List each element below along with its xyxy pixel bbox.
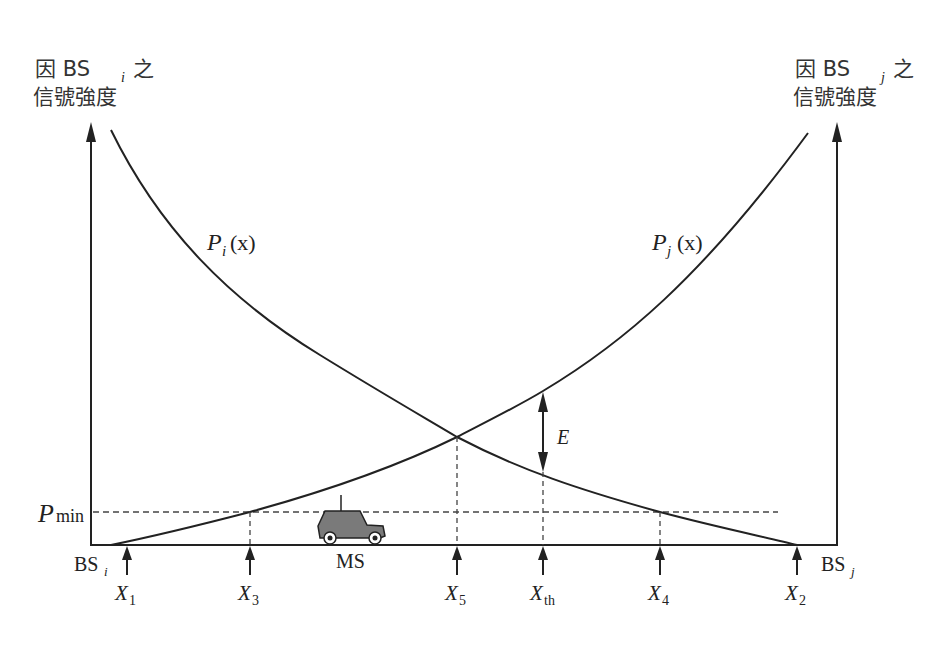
svg-text:P: P [651, 229, 667, 255]
svg-text:信號強度: 信號強度 [793, 85, 877, 109]
svg-text:BS: BS [74, 553, 98, 575]
svg-text:min: min [56, 506, 84, 526]
svg-text:(x): (x) [677, 230, 703, 255]
pi-label: P i (x) [206, 229, 256, 259]
x1-arrow-icon [122, 546, 132, 575]
svg-text:i: i [104, 564, 108, 579]
svg-text:X: X [237, 581, 252, 605]
svg-text:3: 3 [252, 593, 259, 608]
svg-text:5: 5 [459, 593, 466, 608]
xth-arrow-icon [538, 546, 548, 575]
x3-label: X 3 [237, 581, 259, 608]
svg-text:j: j [879, 70, 885, 85]
svg-text:X: X [444, 581, 459, 605]
svg-text:之: 之 [893, 57, 914, 81]
x2-label: X 2 [784, 581, 806, 608]
x1-label: X 1 [114, 581, 136, 608]
xth-label: X th [529, 581, 555, 608]
x5-arrow-icon [452, 546, 462, 575]
svg-text:th: th [544, 593, 555, 608]
e-label: E [556, 426, 569, 448]
svg-text:P: P [206, 229, 222, 255]
svg-text:信號強度: 信號強度 [33, 85, 117, 109]
right-axis-title: 因 BS j 之 信號強度 [793, 57, 914, 109]
svg-text:X: X [647, 581, 662, 605]
svg-text:BS: BS [821, 553, 845, 575]
x5-label: X 5 [444, 581, 466, 608]
svg-text:X: X [529, 581, 544, 605]
car-icon [318, 495, 385, 544]
e-hysteresis-arrow [538, 392, 548, 472]
left-axis-title: 因 BS i 之 信號強度 [33, 57, 154, 109]
svg-text:P: P [37, 499, 54, 528]
pj-curve [111, 133, 808, 545]
svg-text:(x): (x) [230, 230, 256, 255]
ms-label: MS [336, 550, 365, 572]
marker-arrows [122, 546, 802, 575]
svg-text:i: i [121, 70, 125, 85]
svg-text:X: X [784, 581, 799, 605]
pi-curve [111, 130, 797, 545]
bs-i-label: BS i [74, 553, 108, 579]
left-y-axis [86, 122, 96, 545]
handoff-diagram: 因 BS i 之 信號強度 因 BS j 之 信號強度 P i (x) P j … [0, 0, 930, 650]
svg-text:1: 1 [129, 593, 136, 608]
svg-text:i: i [222, 243, 226, 259]
svg-text:之: 之 [133, 57, 154, 81]
svg-text:因 BS: 因 BS [795, 57, 850, 81]
x4-label: X 4 [647, 581, 669, 608]
pj-label: P j (x) [651, 229, 703, 259]
svg-text:因 BS: 因 BS [35, 57, 90, 81]
x2-arrow-icon [792, 546, 802, 575]
x4-arrow-icon [655, 546, 665, 575]
bs-j-label: BS j [821, 553, 855, 579]
x3-arrow-icon [245, 546, 255, 575]
pmin-label: P min [37, 499, 84, 528]
svg-text:j: j [849, 564, 855, 579]
right-y-axis [832, 122, 842, 545]
svg-text:X: X [114, 581, 129, 605]
svg-text:2: 2 [799, 593, 806, 608]
svg-text:4: 4 [662, 593, 669, 608]
